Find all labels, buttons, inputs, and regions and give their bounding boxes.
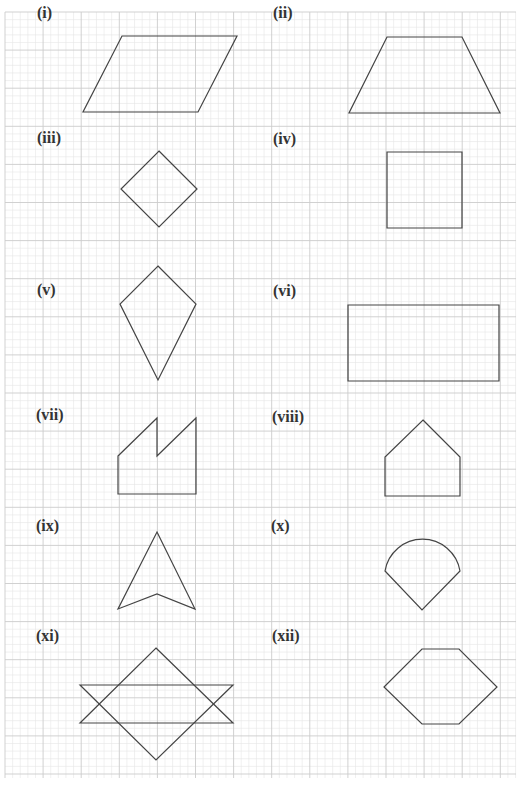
shape-label-iii: (iii) — [37, 130, 61, 146]
shape-label-xii: (xii) — [272, 628, 300, 644]
shape-diamond — [121, 151, 197, 227]
shape-label-ix: (ix) — [36, 518, 59, 534]
shape-label-xi: (xi) — [36, 628, 59, 644]
shape-label-iv: (iv) — [273, 131, 296, 147]
shape-label-vii: (vii) — [36, 407, 64, 423]
shape-cone-semicircle — [385, 539, 460, 610]
worksheet-canvas — [0, 0, 523, 785]
shape-arrowhead — [118, 532, 195, 609]
shape-label-v: (v) — [37, 282, 56, 298]
shape-label-vi: (vi) — [273, 283, 296, 299]
shape-overlapping-triangles — [80, 648, 233, 760]
shape-label-x: (x) — [271, 518, 290, 534]
shape-label-viii: (viii) — [272, 409, 304, 425]
grid-minor-lines — [5, 12, 516, 778]
shape-parallelogram — [83, 36, 237, 112]
shape-kite — [120, 266, 196, 380]
shape-label-i: (i) — [37, 5, 52, 21]
shape-label-ii: (ii) — [273, 5, 293, 21]
